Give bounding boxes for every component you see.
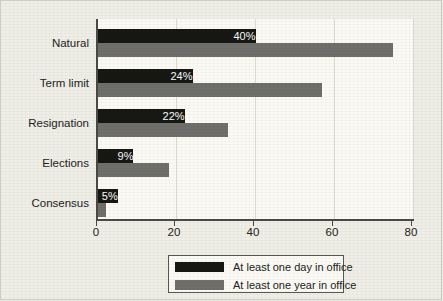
chart-legend: At least one day in office At least one … xyxy=(168,255,344,293)
y-axis-label-0: Natural xyxy=(1,37,89,49)
bar-group-resignation: 22% xyxy=(98,109,414,137)
bar-group-natural: 40% xyxy=(98,29,414,57)
value-label-elections: 9% xyxy=(98,148,138,164)
value-label-resignation: 22% xyxy=(98,108,190,124)
value-label-term-limit: 24% xyxy=(98,68,198,84)
legend-label-one-year: At least one year in office xyxy=(233,279,356,291)
y-axis-label-3: Elections xyxy=(1,157,89,169)
legend-item-one-year: At least one year in office xyxy=(175,278,337,292)
bar-group-term-limit: 24% xyxy=(98,69,414,97)
bar-elections-one-year xyxy=(98,163,169,177)
value-label-natural: 40% xyxy=(98,28,261,44)
y-axis-label-4: Consensus xyxy=(1,197,89,209)
y-axis-category-labels: Natural Term limit Resignation Elections… xyxy=(1,19,96,221)
x-tick-label-80: 80 xyxy=(405,226,418,238)
bar-resignation-one-year xyxy=(98,123,228,137)
legend-swatch-one-day xyxy=(175,262,224,272)
x-tick-label-40: 40 xyxy=(247,226,260,238)
x-tick-label-0: 0 xyxy=(93,226,99,238)
bar-natural-one-year xyxy=(98,43,393,57)
bar-term-limit-one-year xyxy=(98,83,322,97)
bar-natural-one-day: 40% xyxy=(98,29,256,43)
bar-elections-one-day: 9% xyxy=(98,149,133,163)
y-axis-label-2: Resignation xyxy=(1,117,89,129)
bar-consensus-one-day: 5% xyxy=(98,189,118,203)
y-axis-label-1: Term limit xyxy=(1,77,89,89)
x-tick-label-60: 60 xyxy=(326,226,339,238)
bar-consensus-one-year xyxy=(98,203,106,217)
legend-label-one-day: At least one day in office xyxy=(233,261,353,273)
bar-group-elections: 9% xyxy=(98,149,414,177)
bar-group-consensus: 5% xyxy=(98,189,414,217)
x-tick-label-20: 20 xyxy=(168,226,181,238)
x-axis: 0 20 40 60 80 xyxy=(96,221,416,243)
plot-area: 40% 24% 22% 9% 5% xyxy=(96,19,414,221)
legend-swatch-one-year xyxy=(175,280,224,290)
bar-term-limit-one-day: 24% xyxy=(98,69,193,83)
legend-item-one-day: At least one day in office xyxy=(175,260,337,274)
bar-resignation-one-day: 22% xyxy=(98,109,185,123)
value-label-consensus: 5% xyxy=(98,188,123,204)
